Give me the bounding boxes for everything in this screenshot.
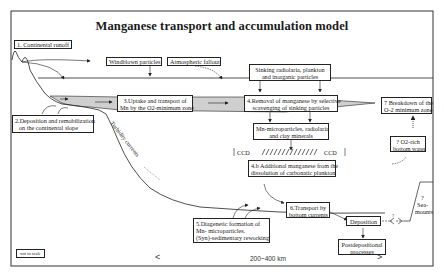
ccd-right-text: CCD <box>324 149 337 156</box>
box-label-line1: 4.b Additional manganese from the <box>251 162 333 169</box>
box-label-line2: Mn by the O2-minimum zone <box>120 104 190 111</box>
box-uptake-transport: 3.Uptake and transport of Mn by the O2-m… <box>117 95 193 112</box>
box-label-line2: scavenging of sinking particles <box>247 104 335 111</box>
box-breakdown-o2-zone: 7 Breakdown of the O-2 minimum zone <box>381 97 432 114</box>
box-label-line1: Mn-microparticles, radiolaria <box>256 125 326 132</box>
box-label: Atmospheric fallout <box>170 58 220 65</box>
box-label-line2: bottom water <box>393 145 423 152</box>
scale-right-bracket: > <box>377 252 382 262</box>
box-deposition-remobilization: 2.Deposition and remobilization on the c… <box>12 115 94 133</box>
scale-left-bracket: < <box>155 252 160 262</box>
box-label-line2: and inorganic particles <box>252 73 328 80</box>
box-deposition: Deposition <box>346 216 381 226</box>
box-label-line1: Postdepositional <box>341 241 383 248</box>
box-label-line2: bottom currents <box>289 211 327 218</box>
seamounts-question: ? <box>421 194 424 201</box>
box-label-line2: O-2 minimum zone <box>384 106 429 113</box>
ccd-left-text: CCD <box>237 149 250 156</box>
box-windblown-particles: Windblown particles <box>106 57 162 66</box>
box-additional-manganese: 4.b Additional manganese from the dissol… <box>248 160 336 177</box>
box-label-line1: 4.Removal of manganese by selective <box>247 97 335 104</box>
ccd-label-left: CCD <box>237 149 250 156</box>
box-continental-runoff: 1. Continental runoff <box>14 40 72 49</box>
diagram-canvas: Manganese transport and accumulation mod… <box>0 0 444 276</box>
box-transport-bottom-currents: 6.Transport by bottom currents <box>286 202 330 218</box>
not-to-scale-note: not to scale <box>16 249 45 258</box>
box-label-line3: (Syn)-sedimentary reworking <box>196 234 267 241</box>
box-label-line1: 5.Diagenetic formation of <box>196 220 267 227</box>
box-label: 1. Continental runoff <box>17 41 69 48</box>
deposition-question: ? <box>392 212 394 219</box>
box-label-line1: 7 Breakdown of the <box>384 99 429 106</box>
box-label-line1: 2.Deposition and remobilization <box>15 117 91 124</box>
box-label-line2: on the continental slope <box>15 124 91 131</box>
seamounts-label-line2: mounts <box>415 208 433 215</box>
box-label-line1: ? O2-rich <box>393 138 423 145</box>
box-label-line2: and clay minerals <box>256 132 326 139</box>
box-label-line2: dissolution of carbonatic plankton <box>251 169 333 176</box>
box-label-line1: 6.Transport by <box>289 204 327 211</box>
box-diagenetic-formation: 5.Diagenetic formation of Mn- microparti… <box>193 218 270 243</box>
box-label: not to scale <box>20 251 41 256</box>
ccd-label-right: CCD <box>324 149 337 156</box>
box-removal-manganese: 4.Removal of manganese by selective scav… <box>244 95 338 112</box>
diagram-title: Manganese transport and accumulation mod… <box>0 19 444 34</box>
box-label: Windblown particles <box>109 58 160 65</box>
scale-distance: 200~400 km <box>250 255 286 262</box>
box-mn-microparticles: Mn-microparticles, radiolaria and clay m… <box>253 123 329 140</box>
box-label-line1: 3.Uptake and transport of <box>120 97 190 104</box>
box-o2-rich-bottom-water: ? O2-rich bottom water <box>390 136 426 152</box>
box-label: Deposition <box>350 218 377 225</box>
box-sinking-particles: Sinking radiolaria, plankton and inorgan… <box>249 64 331 81</box>
box-label-line2: Mn- microparticles. <box>196 227 267 234</box>
box-label-line1: Sinking radiolaria, plankton <box>252 66 328 73</box>
box-atmospheric-fallout: Atmospheric fallout <box>167 57 221 66</box>
seamounts-label-line1: Sea- <box>417 201 428 208</box>
